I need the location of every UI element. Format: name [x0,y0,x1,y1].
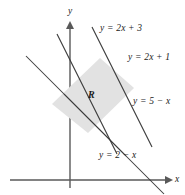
line-label-y-2x-plus-1: y = 2x + 1 [128,52,170,62]
graph-figure: y = 2x + 3 y = 2x + 1 y = 5 − x y = 2 − … [0,0,185,195]
line-label-y-2x-plus-3: y = 2x + 3 [100,23,142,33]
x-axis-label: x [175,174,179,184]
line-label-y-5-minus-x: y = 5 − x [133,96,170,106]
y-axis-label: y [68,6,72,16]
line-label-y-2-minus-x: y = 2 − x [99,150,136,160]
region-label-R: R [88,89,95,100]
